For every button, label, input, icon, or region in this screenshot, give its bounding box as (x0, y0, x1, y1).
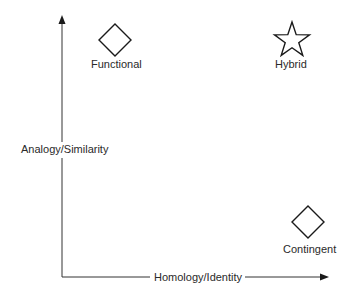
hybrid-label: Hybrid (275, 58, 307, 71)
y-axis-label: Analogy/Similarity (21, 143, 108, 156)
x-axis-label: Homology/Identity (154, 271, 242, 284)
hybrid-star-icon (275, 22, 310, 55)
contingent-diamond-icon (292, 206, 324, 238)
functional-label: Functional (91, 58, 142, 71)
x-axis-arrowhead-icon (320, 274, 329, 281)
y-axis-arrowhead-icon (59, 15, 66, 24)
contingent-label: Contingent (283, 243, 336, 256)
functional-diamond-icon (99, 24, 131, 56)
